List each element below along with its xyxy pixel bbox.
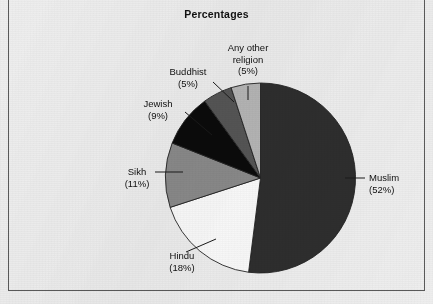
slice-label-muslim-name: Muslim	[369, 172, 427, 184]
pie-chart: Any other religion (5%) Buddhist (5%) Je…	[0, 0, 433, 304]
slice-label-other-line1: Any other	[213, 42, 283, 54]
chart-page: Percentages Any other religion (5	[0, 0, 433, 304]
pie-slices	[165, 83, 355, 273]
slice-label-sikh: Sikh (11%)	[117, 166, 157, 189]
slice-label-muslim: Muslim (52%)	[369, 172, 427, 195]
slice-label-buddhist: Buddhist (5%)	[160, 66, 216, 89]
slice-value-muslim: (52%)	[369, 184, 427, 196]
slice-label-hindu: Hindu (18%)	[157, 250, 207, 273]
slice-label-sikh-name: Sikh	[117, 166, 157, 178]
slice-label-other-line2: religion	[213, 54, 283, 66]
slice-label-hindu-name: Hindu	[157, 250, 207, 262]
slice-value-other: (5%)	[213, 65, 283, 77]
slice-label-any-other-religion: Any other religion (5%)	[213, 42, 283, 77]
slice-label-buddhist-name: Buddhist	[160, 66, 216, 78]
slice-value-buddhist: (5%)	[160, 78, 216, 90]
pie-slice-muslim[interactable]	[249, 83, 356, 273]
slice-label-jewish: Jewish (9%)	[131, 98, 185, 121]
slice-value-sikh: (11%)	[117, 178, 157, 190]
slice-label-jewish-name: Jewish	[131, 98, 185, 110]
slice-value-jewish: (9%)	[131, 110, 185, 122]
slice-value-hindu: (18%)	[157, 262, 207, 274]
